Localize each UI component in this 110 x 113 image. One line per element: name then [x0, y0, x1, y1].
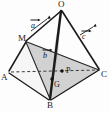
vertex-label-o: O: [58, 0, 65, 9]
tetrahedron-diagram: [0, 0, 110, 113]
vector-label-a: a: [31, 22, 35, 30]
point-p-marker: [60, 69, 63, 72]
vertex-label-m: M: [18, 34, 26, 43]
tetrahedron-figure: O M A C B P G a b c: [0, 0, 110, 113]
vector-c-glyph: c: [82, 33, 86, 41]
vector-label-b: b: [43, 52, 47, 60]
point-label-g: G: [54, 80, 60, 89]
vertex-label-a: A: [1, 73, 8, 82]
vertex-label-c: C: [101, 70, 107, 79]
vertex-label-b: B: [47, 101, 53, 110]
point-label-p: P: [66, 66, 70, 75]
vector-b-glyph: b: [43, 52, 47, 60]
vector-label-c: c: [82, 33, 86, 41]
vector-a-glyph: a: [31, 22, 35, 30]
